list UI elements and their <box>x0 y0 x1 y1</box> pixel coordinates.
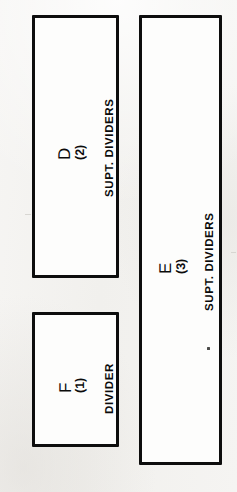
drawing-sheet: D (2) SUPT. DIVIDERS F (1) DIVIDER E (3)… <box>0 0 237 492</box>
box-f-letter: F <box>57 383 74 393</box>
box-f-caption: DIVIDER <box>105 363 117 414</box>
box-e-number: (3) <box>175 259 188 274</box>
box-e-letter: E <box>157 263 174 274</box>
box-f-number: (1) <box>74 378 87 393</box>
box-e-caption: SUPT. DIVIDERS <box>205 212 217 311</box>
scan-faint-mark-right <box>231 252 236 253</box>
box-d-letter: D <box>56 148 73 160</box>
box-d-number: (2) <box>74 145 87 160</box>
scan-speck-artifact <box>207 347 210 350</box>
scan-faint-mark-left <box>25 214 31 215</box>
box-d-caption: SUPT. DIVIDERS <box>105 98 117 197</box>
